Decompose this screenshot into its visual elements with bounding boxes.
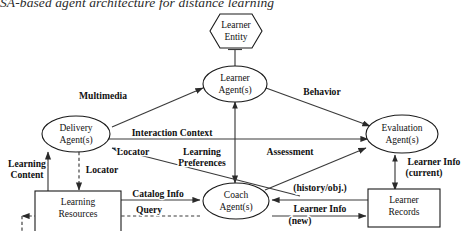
node-learner-records-label-1: Learner	[389, 195, 419, 205]
edge-label-locator-upper: Locator	[117, 146, 150, 157]
edge-label-catalog-info: Catalog Info	[132, 188, 184, 199]
node-delivery-agent[interactable]: Delivery Agent(s)	[42, 116, 110, 152]
edge-label-history-obj: (history/obj.)	[293, 182, 347, 194]
node-evaluation-agent-label-1: Evaluation	[381, 123, 422, 133]
edge-label-multimedia: Multimedia	[79, 90, 127, 101]
node-learner-records[interactable]: Learner Records	[368, 189, 440, 227]
node-delivery-agent-label-2: Agent(s)	[59, 135, 92, 146]
node-coach-agent-label-1: Coach	[224, 190, 249, 200]
node-learner-entity-label-1: Learner	[221, 20, 251, 30]
node-learner-entity-label-2: Entity	[224, 32, 247, 42]
node-coach-agent-label-2: Agent(s)	[219, 202, 252, 213]
edge-label-learner-info-new-2: (new)	[289, 215, 312, 227]
node-learner-agent-label-2: Agent(s)	[218, 85, 251, 96]
node-delivery-agent-label-1: Delivery	[59, 123, 92, 133]
node-learning-resources-label-1: Learning	[61, 197, 96, 207]
node-learner-entity[interactable]: Learner Entity	[210, 14, 262, 48]
edge-label-learner-info-new-1: Learner Info	[294, 203, 347, 214]
edge-label-learning-content-1: Learning	[8, 158, 46, 169]
edge-label-learner-info-current-1: Learner Info	[408, 156, 461, 167]
edge-label-behavior: Behavior	[303, 86, 341, 97]
edge-label-learning-preferences-1: Learning	[183, 146, 221, 157]
node-learning-resources[interactable]: Learning Resources	[35, 191, 121, 231]
node-learner-agent[interactable]: Learner Agent(s)	[203, 66, 267, 102]
node-evaluation-agent-label-2: Agent(s)	[385, 135, 418, 146]
node-learner-agent-label-1: Learner	[220, 73, 250, 83]
node-evaluation-agent[interactable]: Evaluation Agent(s)	[366, 115, 438, 153]
node-coach-agent[interactable]: Coach Agent(s)	[203, 183, 269, 219]
diagram-canvas: SA-based agent architecture for distance…	[0, 0, 462, 231]
edge-label-interaction-context: Interaction Context	[132, 127, 214, 138]
edge-label-assessment: Assessment	[267, 146, 315, 157]
node-learner-records-label-2: Records	[388, 207, 419, 217]
edge-label-locator-lower: Locator	[86, 164, 119, 175]
edge-label-learning-preferences-2: Preferences	[178, 157, 226, 168]
edge-label-query: Query	[136, 204, 162, 215]
architecture-diagram: Learner Entity Learner Agent(s) Delivery…	[0, 0, 462, 231]
edge-label-learning-content-2: Content	[10, 169, 44, 180]
node-learning-resources-label-2: Resources	[58, 209, 97, 219]
edge-label-learner-info-current-2: (current)	[405, 167, 442, 179]
